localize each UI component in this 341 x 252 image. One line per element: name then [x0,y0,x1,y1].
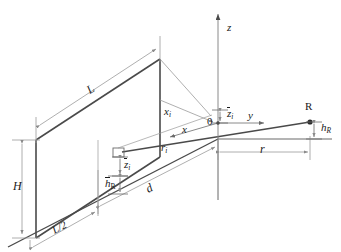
zi-source-overbar [124,158,127,159]
dimension-label-ri: ri [161,142,167,155]
receiver-label-R: R [305,101,312,112]
dimension-hR [306,122,322,139]
hR-sub: R [327,126,332,135]
dimension-label-xi: xi [164,106,171,119]
dimension-label-hR: hR [321,122,331,135]
zi-source-sub: i [128,163,130,172]
zi-origin-base: z [227,107,231,119]
axis-label-z: z [227,22,231,33]
dimension-label-hR-bar-source: hR [105,178,115,191]
dimension-label-zi-origin: zi [227,108,233,121]
zi-origin-sub: i [231,112,233,121]
hR-bar-sub: R [111,182,116,191]
xi-sub: i [169,110,171,119]
axis-label-x: x [182,124,187,135]
barrier-geometry-diagram [0,0,341,252]
hR-bar-overbar [105,177,110,178]
axis-label-y: y [248,110,253,121]
dimension-zi-origin [212,110,228,123]
zi-source-base: z [124,158,128,170]
ri-sub: i [165,146,167,155]
origin-label: 0 [207,116,213,127]
dimension-label-r: r [260,143,265,155]
dimension-d [98,140,218,214]
hR-bar-base: h [105,177,111,189]
zi-origin-overbar [227,107,230,108]
dimension-label-H: H [13,180,22,192]
dimension-label-zi-source: zi [124,159,130,172]
